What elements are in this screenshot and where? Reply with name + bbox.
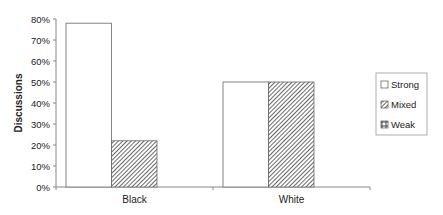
x-tick-label: White [279,194,305,205]
legend-label: Mixed [391,99,416,110]
x-axis: BlackWhite [56,187,370,205]
y-tick-label: 10% [31,161,51,172]
y-tick-label: 0% [36,182,50,193]
bar-strong [223,82,269,187]
legend: StrongMixedWeak [376,73,427,135]
bar-mixed [269,82,315,187]
legend-swatch-mixed [381,101,388,108]
bar-strong [66,23,112,187]
y-tick-label: 40% [31,98,51,109]
y-tick-label: 80% [31,14,51,25]
bars [66,23,314,187]
x-tick-label: Black [122,194,147,205]
bar-mixed [112,141,158,187]
y-tick-label: 20% [31,140,51,151]
legend-label: Weak [391,119,415,130]
y-tick-label: 70% [31,35,51,46]
y-axis-label: Discussions [13,73,24,132]
legend-label: Strong [391,79,419,90]
y-axis: 0%10%20%30%40%50%60%70%80% [31,14,56,193]
bar-chart: 0%10%20%30%40%50%60%70%80% BlackWhite Di… [0,0,443,215]
y-tick-label: 50% [31,77,51,88]
legend-swatch-strong [381,81,388,88]
y-tick-label: 30% [31,119,51,130]
y-tick-label: 60% [31,56,51,67]
legend-swatch-weak [381,121,388,128]
